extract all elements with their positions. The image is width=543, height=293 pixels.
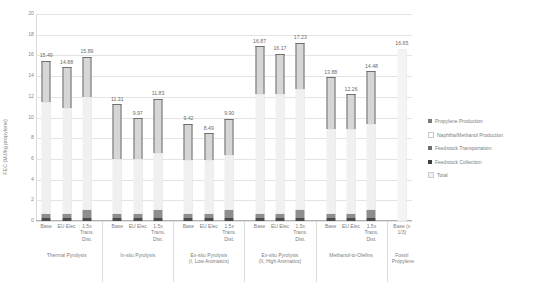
legend-item[interactable]: Total <box>428 172 540 178</box>
bar-segment <box>255 218 264 221</box>
bar-value-label: 14.88 <box>60 60 73 65</box>
bar-value-label: 15.89 <box>80 49 93 54</box>
bar-segment <box>275 214 284 218</box>
x-axis-tick-label: Base (x 1/3) <box>392 223 412 236</box>
bar-segment <box>62 67 71 108</box>
bar-segment <box>296 89 305 209</box>
x-axis-tick-label: EU Elec <box>199 223 219 229</box>
x-axis-tick-label: 1.5x Trans. Dist. <box>290 223 310 242</box>
bar-segment <box>275 54 284 94</box>
legend-item[interactable]: Feedstock Transportation <box>428 145 540 151</box>
bar-segment <box>184 214 193 218</box>
bar-segment <box>184 160 193 215</box>
gridline <box>36 221 412 222</box>
bar-series-group: 15.4914.8815.8911.319.9711.839.428.499.9… <box>36 14 412 221</box>
bar-segment <box>82 97 91 209</box>
bar-segment <box>367 71 376 124</box>
bar-segment <box>133 214 142 218</box>
bar-segment <box>42 61 51 102</box>
bar-slot: 11.83 <box>148 14 168 221</box>
bar-segment <box>296 218 305 221</box>
bar-value-label: 11.83 <box>152 91 165 96</box>
group-label: In-situ Pyrolysis <box>107 252 168 258</box>
group-label: Fossil Propylene <box>392 252 412 265</box>
bar-segment <box>275 94 284 214</box>
bar-value-label: 13.88 <box>324 70 337 75</box>
bar-segment <box>184 218 193 221</box>
legend-swatch-icon <box>428 160 432 164</box>
x-axis-tick-label: EU Elec <box>270 223 290 229</box>
y-axis-tick-label: 6 <box>31 156 34 161</box>
chart-container: 15.4914.8815.8911.319.9711.839.428.499.9… <box>0 0 543 293</box>
y-axis-tick-label: 14 <box>28 73 34 78</box>
legend-item[interactable]: Propylene Production <box>428 118 540 124</box>
bar-value-label: 16.17 <box>273 46 286 51</box>
bar-segment <box>255 214 264 218</box>
legend-item[interactable]: Naphtha/Methanol Production <box>428 132 540 138</box>
y-axis-tick-label: 20 <box>28 11 34 16</box>
y-axis-tick-label: 10 <box>28 115 34 120</box>
group-label: Ex-situ Pyrolysis (I, Low Aromatics) <box>178 252 239 265</box>
bar-value-label: 16.87 <box>253 39 266 44</box>
x-axis-tick-label: EU Elec <box>128 223 148 229</box>
x-axis-tick-label: Base <box>178 223 198 229</box>
bar-slot: 16.87 <box>249 14 269 221</box>
bar-segment <box>42 218 51 221</box>
legend-swatch-icon <box>428 146 432 150</box>
group-label: Thermal Pyrolysis <box>36 252 97 258</box>
x-axis-tick-label: EU Elec <box>56 223 76 229</box>
bar-segment <box>82 57 91 98</box>
bar-segment <box>133 159 142 214</box>
bar-slot: 9.42 <box>178 14 198 221</box>
legend-label: Naphtha/Methanol Production <box>437 132 503 138</box>
bar-slot: 12.26 <box>341 14 361 221</box>
bar-segment <box>42 102 51 214</box>
bar-value-label: 9.42 <box>183 116 193 121</box>
bar-segment <box>113 214 122 218</box>
legend-swatch-icon <box>428 132 434 138</box>
bar-segment <box>296 43 305 90</box>
bar-segment <box>82 210 91 218</box>
bar-segment <box>347 218 356 221</box>
legend-label: Total <box>437 172 448 178</box>
x-axis-tick-label: Base <box>36 223 56 229</box>
y-axis-tick-label: 12 <box>28 94 34 99</box>
bar-segment <box>326 77 335 129</box>
bar-segment <box>367 210 376 218</box>
legend-label: Feedstock Transportation <box>435 145 491 151</box>
y-axis-tick-label: 2 <box>31 198 34 203</box>
bar-slot: 16.17 <box>270 14 290 221</box>
bar-segment <box>347 129 356 214</box>
bar-slot: 15.49 <box>36 14 56 221</box>
bar-segment <box>184 124 193 160</box>
bar-slot: 14.88 <box>56 14 76 221</box>
x-axis-tick-label: 1.5x Trans. Dist. <box>148 223 168 242</box>
group-separator <box>173 222 174 282</box>
bar-value-label: 9.97 <box>133 111 143 116</box>
bar-segment <box>62 108 71 214</box>
bar-slot: 9.90 <box>219 14 239 221</box>
bar-segment <box>326 218 335 221</box>
legend-label: Propylene Production <box>435 118 483 124</box>
bar-segment <box>296 210 305 218</box>
bar-segment <box>113 159 122 214</box>
y-axis-tick-label: 16 <box>28 53 34 58</box>
bar-segment <box>204 218 213 221</box>
legend-item[interactable]: Feedstock Collection <box>428 159 540 165</box>
bar-value-label: 15.49 <box>40 53 53 58</box>
bar-value-label: 14.48 <box>365 64 378 69</box>
bar-segment <box>113 218 122 221</box>
bar-segment <box>62 218 71 221</box>
bar-slot: 17.23 <box>290 14 310 221</box>
group-separator <box>102 222 103 282</box>
bar-segment <box>225 210 234 218</box>
group-separator <box>316 222 317 282</box>
bar-segment <box>62 214 71 218</box>
bar-segment <box>397 49 406 221</box>
bar-segment <box>154 210 163 218</box>
plot-area: 15.4914.8815.8911.319.9711.839.428.499.9… <box>36 14 412 221</box>
group-separator <box>387 222 388 282</box>
bar-segment <box>42 214 51 218</box>
legend-swatch-icon <box>428 119 432 123</box>
x-axis-tick-label: Base <box>249 223 269 229</box>
